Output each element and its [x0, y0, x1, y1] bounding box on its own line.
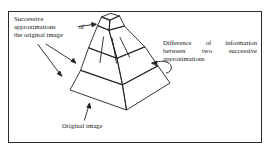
difference-label-line-2: between two successive [163, 47, 257, 55]
arrow-to-mid-tier [46, 44, 76, 63]
pyramid-tier-2 [89, 26, 146, 59]
arrow-to-base [85, 104, 92, 121]
successive-label-line-2: approximations of [14, 23, 84, 31]
successive-approximations-label: Successive approximations of the origina… [14, 15, 84, 40]
pyramid-tier-3 [81, 47, 159, 85]
figure-root: Successive approximations of the origina… [0, 0, 273, 158]
arrow-to-lower-tier [38, 45, 62, 77]
difference-label-line-3: approximations [163, 55, 257, 63]
original-label-line-1: Original image [62, 122, 118, 130]
successive-label-line-1: Successive [14, 15, 84, 23]
difference-label-line-1: Difference of information [163, 39, 257, 47]
difference-of-information-label: Difference of information between two su… [163, 39, 257, 64]
pyramid-tier-1 [98, 16, 125, 30]
successive-label-line-3: the original image [14, 31, 84, 39]
original-image-label: Original image [62, 122, 118, 130]
